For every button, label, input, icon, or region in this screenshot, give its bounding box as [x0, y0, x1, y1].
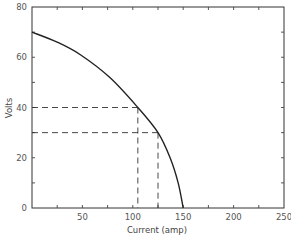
x-tick-label: 150: [175, 212, 191, 222]
y-tick-label: 0: [22, 203, 27, 213]
x-tick-label: 100: [125, 212, 141, 222]
x-tick-label: 50: [77, 212, 88, 222]
x-tick-label: 200: [225, 212, 241, 222]
y-axis-title: Volts: [4, 97, 14, 118]
y-tick-label: 20: [16, 153, 27, 163]
series: [32, 32, 183, 208]
guide-lines: [32, 108, 158, 209]
y-tick-label: 40: [16, 103, 27, 113]
ticks: 50100150200250020406080: [16, 2, 291, 222]
series-line: [32, 32, 183, 208]
x-tick-label: 250: [276, 212, 291, 222]
x-axis-title: Current (amp): [127, 225, 187, 235]
y-tick-label: 80: [16, 2, 27, 12]
y-tick-label: 60: [16, 52, 27, 62]
chart: 50100150200250020406080 Current (amp) Vo…: [0, 0, 291, 238]
